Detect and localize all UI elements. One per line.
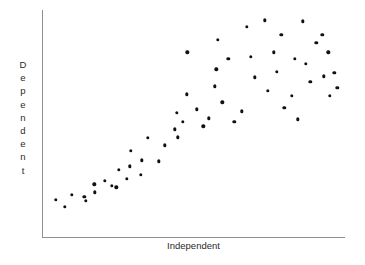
data-point [240,110,243,113]
data-point [249,55,252,58]
data-point [173,128,176,131]
data-point [125,177,128,180]
data-point [115,186,118,189]
data-point [92,183,95,186]
y-axis-label-letter: e [12,137,34,150]
data-point [296,118,299,121]
data-point [84,199,87,202]
data-point [333,71,336,74]
data-point [227,57,230,60]
data-point [63,205,66,208]
data-point [186,50,189,53]
data-point [93,191,96,194]
data-point [275,70,278,73]
y-axis-label-letter: p [12,84,34,97]
data-point [140,159,143,162]
data-point [181,120,184,123]
data-point [176,136,179,139]
y-axis-label-letter: D [12,58,34,71]
data-point [245,25,248,28]
data-point [128,164,131,167]
data-point [103,179,106,182]
x-axis-label: Independent [42,240,345,251]
data-point [70,193,73,196]
data-point [304,62,307,65]
data-point [139,173,142,176]
y-axis-label-letter: e [12,71,34,84]
data-point [216,38,219,41]
data-point [213,85,216,88]
scatter-chart: Dependent Independent [0,0,365,265]
data-point [195,107,198,110]
data-point [185,93,188,96]
data-point [157,160,160,163]
y-axis-label-letter: t [12,164,34,177]
data-point [336,86,339,89]
data-point [272,50,275,53]
data-point [207,117,210,120]
data-point [327,50,330,53]
data-point [110,184,113,187]
data-point [221,101,224,104]
y-axis-label-letter: n [12,150,34,163]
data-point [280,33,283,36]
data-point [54,198,57,201]
data-point [328,94,331,97]
data-point [315,41,318,44]
data-point [129,149,132,152]
y-axis-label: Dependent [12,58,34,177]
data-point [308,80,311,83]
data-point [322,74,325,77]
data-point [301,20,304,23]
data-point [146,136,149,139]
data-point [253,76,256,79]
data-point [163,144,166,147]
data-point [117,168,120,171]
data-point [175,111,178,114]
data-point [290,94,293,97]
data-point [233,120,236,123]
data-point [82,195,85,198]
data-point [201,125,204,128]
y-axis-label-letter: d [12,124,34,137]
y-axis-label-letter: n [12,111,34,124]
data-point [263,19,266,22]
data-point [321,33,324,36]
y-axis-label-letter: e [12,98,34,111]
data-point [266,89,269,92]
plot-area [42,10,345,238]
data-point [215,68,218,71]
data-point [283,106,286,109]
data-points-layer [42,10,345,238]
data-point [293,57,296,60]
